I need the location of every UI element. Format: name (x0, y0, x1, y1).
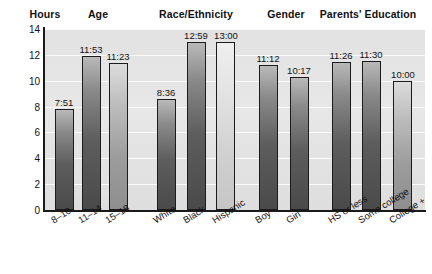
group-title-parents-education: Parents' Education (320, 8, 417, 20)
y-tick-label: 8 (4, 101, 40, 112)
bar-gender-boy-value-label: 11:12 (256, 53, 279, 64)
group-title-race-ethnicity: Race/Ethnicity (159, 8, 233, 20)
bar-gender-girl (290, 77, 309, 210)
y-tick-label: 6 (4, 127, 40, 138)
bar-race-white (157, 99, 176, 210)
bar-chart: HoursAgeRace/EthnicityGenderParents' Edu… (0, 0, 432, 274)
bar-age-8-10 (55, 109, 74, 210)
y-axis-line (43, 27, 45, 212)
bar-parents-hs-value-label: 11:26 (329, 50, 352, 61)
y-tick-label: 14 (4, 24, 40, 35)
bar-race-black (187, 42, 206, 210)
y-tick-label: 12 (4, 49, 40, 60)
y-axis-ticks: 02468101214 (0, 0, 40, 274)
bar-age-8-10-value-label: 7:51 (55, 97, 74, 108)
bar-parents-hs (332, 62, 351, 210)
y-tick-label: 0 (4, 205, 40, 216)
bar-race-black-value-label: 12:59 (184, 30, 208, 41)
bar-parents-some-value-label: 11:30 (359, 49, 382, 60)
bar-parents-college-value-label: 10:00 (391, 69, 415, 80)
bar-race-hispanic (216, 42, 235, 210)
bar-gender-girl-value-label: 10:17 (287, 65, 311, 76)
group-title-gender: Gender (267, 8, 304, 20)
bar-race-white-value-label: 8:36 (157, 87, 176, 98)
bar-age-11-14-value-label: 11:53 (79, 44, 102, 55)
bar-gender-boy (259, 65, 278, 210)
group-title-age: Age (88, 8, 108, 20)
y-tick-label: 2 (4, 179, 40, 190)
bar-parents-some (362, 61, 381, 210)
bar-race-hispanic-value-label: 13:00 (214, 30, 238, 41)
bar-age-15-18-value-label: 11:23 (106, 51, 129, 62)
y-tick-label: 4 (4, 153, 40, 164)
bar-age-11-14 (82, 56, 101, 210)
bar-age-15-18 (109, 63, 128, 210)
y-tick-label: 10 (4, 75, 40, 86)
